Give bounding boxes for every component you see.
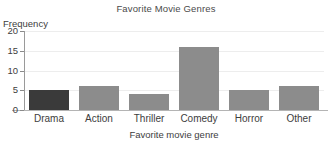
y-tick-mark	[20, 71, 24, 72]
y-axis-line	[24, 31, 25, 111]
y-tick-mark	[20, 31, 24, 32]
x-axis-line	[12, 110, 328, 111]
y-tick-label: 0	[0, 105, 18, 115]
plot-area	[24, 31, 324, 110]
x-tick-label: Thriller	[124, 113, 174, 124]
chart-title: Favorite Movie Genres	[0, 3, 332, 14]
y-tick-mark	[20, 110, 24, 111]
x-tick-label: Other	[274, 113, 324, 124]
gridline	[24, 71, 324, 72]
y-tick-label: 5	[0, 85, 18, 95]
x-tick-label: Drama	[24, 113, 74, 124]
bar[interactable]	[279, 86, 319, 110]
bar[interactable]	[129, 94, 169, 110]
bar[interactable]	[29, 90, 69, 110]
y-tick-mark	[20, 90, 24, 91]
x-tick-label: Horror	[224, 113, 274, 124]
bar[interactable]	[79, 86, 119, 110]
y-tick-label: 20	[0, 26, 18, 36]
x-axis-title: Favorite movie genre	[24, 129, 324, 140]
y-tick-label: 10	[0, 66, 18, 76]
bar-chart-figure: Favorite Movie Genres Frequency Favorite…	[0, 0, 332, 151]
gridline	[24, 51, 324, 52]
bar[interactable]	[229, 90, 269, 110]
x-tick-label: Comedy	[174, 113, 224, 124]
gridline	[24, 31, 324, 32]
y-tick-mark	[20, 51, 24, 52]
x-tick-label: Action	[74, 113, 124, 124]
y-tick-label: 15	[0, 46, 18, 56]
bar[interactable]	[179, 47, 219, 110]
